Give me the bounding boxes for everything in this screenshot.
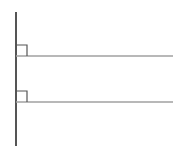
perpendicular-lines-diagram [0, 0, 184, 156]
right-angle-marker-1 [16, 45, 27, 56]
right-angle-marker-2 [16, 91, 27, 102]
horizontal-line-1-group [16, 45, 173, 56]
horizontal-line-2-group [16, 91, 173, 102]
